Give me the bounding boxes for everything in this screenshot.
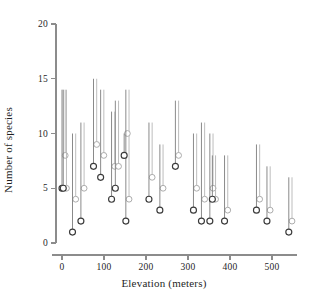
data-point-marker xyxy=(198,218,204,224)
y-tick-label: 0 xyxy=(20,238,48,248)
x-axis-title: Elevation (meters) xyxy=(121,277,206,289)
y-tick-label: 15 xyxy=(20,74,48,84)
axes-group xyxy=(51,24,297,260)
data-point-marker xyxy=(73,196,79,202)
data-point-marker xyxy=(286,229,292,235)
data-point-marker xyxy=(264,218,270,224)
y-tick-label: 10 xyxy=(20,129,48,139)
data-point-marker xyxy=(112,185,118,191)
data-point-marker xyxy=(146,196,152,202)
x-tick-label: 400 xyxy=(223,262,238,272)
data-point-marker xyxy=(172,163,178,169)
x-tick-label: 0 xyxy=(60,262,65,272)
plot-area xyxy=(0,0,328,301)
series-estimated xyxy=(62,79,295,224)
series-observed xyxy=(59,79,292,235)
data-point-marker xyxy=(60,185,66,191)
data-series-group xyxy=(59,79,295,235)
chart-svg xyxy=(0,0,328,301)
data-point-marker xyxy=(101,153,107,159)
data-point-marker xyxy=(109,196,115,202)
y-axis-title: Number of species xyxy=(2,107,14,193)
data-point-marker xyxy=(94,142,100,148)
data-point-marker xyxy=(267,207,273,213)
data-point-marker xyxy=(91,163,97,169)
x-tick-label: 300 xyxy=(181,262,196,272)
x-tick-label: 100 xyxy=(97,262,112,272)
x-tick-label: 500 xyxy=(265,262,280,272)
data-point-marker xyxy=(81,185,87,191)
data-point-marker xyxy=(222,218,228,224)
data-point-marker xyxy=(121,152,127,158)
data-point-marker xyxy=(225,207,231,213)
data-point-marker xyxy=(257,196,263,202)
data-point-marker xyxy=(123,218,129,224)
figure-container: 05101520 0100200300400500 Number of spec… xyxy=(0,0,328,301)
data-point-marker xyxy=(157,207,163,213)
data-point-marker xyxy=(98,174,104,180)
data-point-marker xyxy=(126,196,132,202)
data-point-marker xyxy=(253,207,259,213)
data-point-marker xyxy=(70,229,76,235)
data-point-marker xyxy=(194,185,200,191)
data-point-marker xyxy=(209,196,215,202)
data-point-marker xyxy=(289,218,295,224)
y-tick-label: 5 xyxy=(20,183,48,193)
y-tick-label: 20 xyxy=(20,19,48,29)
data-point-marker xyxy=(207,218,213,224)
data-point-marker xyxy=(149,174,155,180)
data-point-marker xyxy=(176,153,182,159)
data-point-marker xyxy=(190,207,196,213)
data-point-marker xyxy=(210,185,216,191)
data-point-marker xyxy=(124,131,130,137)
data-point-marker xyxy=(202,196,208,202)
data-point-marker xyxy=(160,185,166,191)
x-tick-label: 200 xyxy=(139,262,154,272)
data-point-marker xyxy=(78,218,84,224)
data-point-marker xyxy=(116,163,122,169)
